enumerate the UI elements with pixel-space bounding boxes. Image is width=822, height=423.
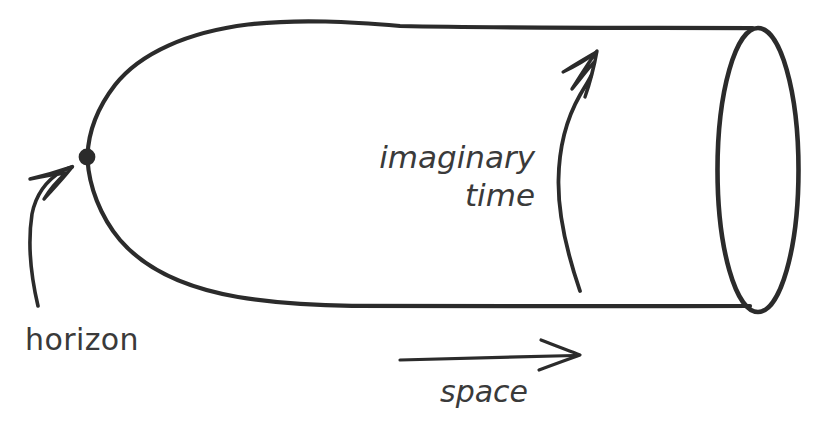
imaginary-time-label-line2: time <box>465 177 535 213</box>
horizon-arrowhead <box>30 167 73 200</box>
cigar-top-contour <box>88 21 753 155</box>
imaginary-time-arrow-group <box>558 51 597 291</box>
imaginary-time-label-line1: imaginary <box>379 139 535 175</box>
space-label: space <box>440 374 528 409</box>
imaginary-time-arrow-shaft <box>558 76 591 291</box>
space-arrow-shaft <box>400 356 575 361</box>
space-arrow-group <box>400 340 580 370</box>
horizon-point-dot <box>79 149 96 166</box>
diagram-canvas: horizon imaginary time space <box>0 0 822 423</box>
horizon-arrow-group <box>30 167 73 307</box>
cigar-bottom-contour <box>88 160 751 307</box>
cylinder-end-ellipse <box>718 28 799 312</box>
imaginary-time-cigar-figure: horizon imaginary time space <box>0 0 822 423</box>
horizon-label: horizon <box>25 322 139 357</box>
